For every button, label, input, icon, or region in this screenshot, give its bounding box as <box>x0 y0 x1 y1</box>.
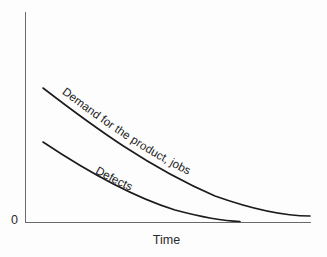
x-axis-title: Time <box>0 233 327 247</box>
y-axis-origin-label: 0 <box>11 214 18 227</box>
curve-label-defects: Defects <box>94 163 135 192</box>
chart-figure: Demand for the product, jobs Defects 0 T… <box>0 0 327 257</box>
x-axis-title-label: Time <box>153 233 180 247</box>
curve-label-defects-text: Defects <box>94 163 135 192</box>
curve-label-demand-text: Demand for the product, jobs <box>60 84 193 176</box>
plot-area: Demand for the product, jobs Defects <box>0 0 327 257</box>
curve-label-demand: Demand for the product, jobs <box>60 84 193 176</box>
curve-defects <box>43 142 240 222</box>
